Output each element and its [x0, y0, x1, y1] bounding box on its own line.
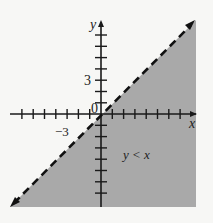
- y-axis-label: y: [88, 17, 97, 32]
- y-tick-label: 3: [84, 73, 91, 88]
- x-tick-label: −3: [55, 124, 69, 139]
- y-axis-arrow-icon: [98, 20, 104, 27]
- inequality-graph: y x 0 −3 3 y < x: [0, 0, 213, 223]
- x-axis-label: x: [188, 116, 196, 131]
- origin-label: 0: [91, 101, 98, 116]
- region-label: y < x: [121, 147, 150, 162]
